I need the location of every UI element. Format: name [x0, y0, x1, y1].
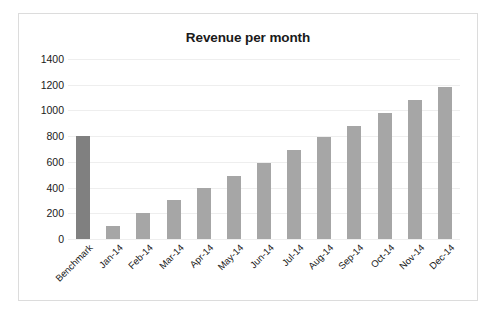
bar[interactable] [317, 137, 331, 239]
bar[interactable] [287, 150, 301, 239]
x-axis-tick-label: Feb-14 [126, 242, 155, 271]
bar[interactable] [347, 126, 361, 239]
bar[interactable] [197, 188, 211, 239]
x-axis-tick-label: Jul-14 [280, 242, 306, 268]
x-axis: BenchmarkJan-14Feb-14Mar-14Apr-14May-14J… [68, 242, 460, 300]
bar[interactable] [136, 213, 150, 239]
x-axis-tick-label: Nov-14 [397, 242, 426, 271]
bar-slot [189, 59, 219, 239]
x-axis-tick-label: Sep-14 [336, 242, 365, 271]
bar-slot [370, 59, 400, 239]
x-axis-tick-label: Oct-14 [368, 242, 396, 270]
gridline [68, 239, 460, 240]
x-axis-tick-label: Dec-14 [427, 242, 456, 271]
y-axis-tick-label: 1400 [19, 53, 64, 65]
bar-slot [158, 59, 188, 239]
y-axis-tick-label: 600 [19, 156, 64, 168]
y-axis-tick-label: 1000 [19, 104, 64, 116]
y-axis-tick-label: 0 [19, 233, 64, 245]
bar-slot [339, 59, 369, 239]
bar[interactable] [76, 136, 90, 239]
x-axis-tick-label: Benchmark [53, 242, 95, 284]
bar-slot [219, 59, 249, 239]
bar-slot [249, 59, 279, 239]
x-axis-tick-label: Aug-14 [306, 242, 335, 271]
x-axis-tick-label: Apr-14 [187, 242, 215, 270]
x-axis-tick-label: Mar-14 [156, 242, 185, 271]
bar[interactable] [378, 113, 392, 239]
bar-slot [128, 59, 158, 239]
bar-slot [279, 59, 309, 239]
bar-slot [430, 59, 460, 239]
bar-slot [309, 59, 339, 239]
plot-area [68, 59, 460, 239]
bar[interactable] [106, 226, 120, 239]
bar[interactable] [257, 163, 271, 239]
y-axis-tick-label: 400 [19, 182, 64, 194]
x-axis-tick-label: May-14 [215, 242, 245, 272]
bar-series [68, 59, 460, 239]
y-axis-tick-label: 200 [19, 207, 64, 219]
x-axis-tick-label: Jun-14 [248, 242, 276, 270]
y-axis-tick-label: 800 [19, 130, 64, 142]
y-axis: 1400120010008006004002000 [19, 59, 64, 239]
bar[interactable] [227, 176, 241, 239]
bar-slot [400, 59, 430, 239]
chart-container: Revenue per month 1400120010008006004002… [18, 13, 478, 301]
bar[interactable] [408, 100, 422, 239]
bar[interactable] [438, 87, 452, 239]
bar-slot [98, 59, 128, 239]
x-axis-tick-label: Jan-14 [97, 242, 125, 270]
bar-slot [68, 59, 98, 239]
chart-title: Revenue per month [19, 30, 477, 45]
y-axis-tick-label: 1200 [19, 79, 64, 91]
bar[interactable] [167, 200, 181, 239]
